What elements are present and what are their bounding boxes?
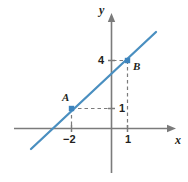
x-axis-arrowhead xyxy=(167,125,176,132)
point-b-label: B xyxy=(133,61,140,72)
tick-label-x-1: 1 xyxy=(125,134,131,145)
point-a-label: A xyxy=(62,92,69,103)
y-axis-label: y xyxy=(99,4,104,16)
y-axis-arrowhead xyxy=(108,13,115,22)
tick-label-y-1: 1 xyxy=(119,103,125,114)
graph-canvas xyxy=(0,0,188,182)
point-a-marker xyxy=(69,106,74,111)
plotted-line xyxy=(31,32,156,149)
tick-label-x-neg2: −2 xyxy=(63,134,76,145)
coordinate-plane-figure: y x A B −2 1 1 4 xyxy=(0,0,188,182)
point-b-marker xyxy=(125,58,130,63)
tick-label-y-4: 4 xyxy=(98,55,104,66)
x-axis-label: x xyxy=(175,134,181,146)
